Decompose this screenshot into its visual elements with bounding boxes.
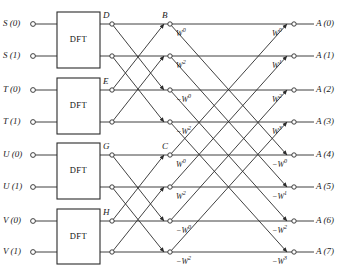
output-label-3: A (3) xyxy=(316,116,334,126)
twiddle-stage3-5: −W1 xyxy=(272,190,287,201)
stage1-node-1 xyxy=(110,54,114,58)
output-node-6 xyxy=(292,219,296,223)
twiddle-stage3-2: W2 xyxy=(272,93,282,104)
output-node-5 xyxy=(292,185,296,189)
node-label-B: B xyxy=(162,10,168,20)
stage2-node-5 xyxy=(168,185,172,189)
output-node-4 xyxy=(292,153,296,157)
twiddle-stage2-1: W2 xyxy=(176,59,186,70)
node-label-G: G xyxy=(103,141,110,151)
output-label-2: A (2) xyxy=(316,84,334,94)
fft-flow-diagram: DFTDFTDFTDFTS (0)S (1)T (0)T (1)U (0)U (… xyxy=(0,0,338,275)
output-node-2 xyxy=(292,88,296,92)
stage2-node-3 xyxy=(168,120,172,124)
input-terminal-0 xyxy=(31,22,36,27)
output-node-1 xyxy=(292,54,296,58)
output-node-7 xyxy=(292,250,296,254)
input-terminal-5 xyxy=(31,185,36,190)
input-label-7: V (1) xyxy=(3,246,21,256)
output-label-7: A (7) xyxy=(316,246,334,256)
stage2-node-6 xyxy=(168,219,172,223)
input-label-3: T (1) xyxy=(3,116,21,126)
input-terminal-4 xyxy=(31,153,36,158)
stage2-node-2 xyxy=(168,88,172,92)
twiddle-stage2-6: −W0 xyxy=(176,224,191,235)
stage2-node-4 xyxy=(168,153,172,157)
input-label-4: U (0) xyxy=(3,149,22,159)
input-terminal-6 xyxy=(31,219,36,224)
input-label-5: U (1) xyxy=(3,181,22,191)
stage1-node-6 xyxy=(110,219,114,223)
twiddle-stage3-6: −W2 xyxy=(272,224,287,235)
stage1-node-2 xyxy=(110,88,114,92)
input-label-2: T (0) xyxy=(3,84,21,94)
output-node-3 xyxy=(292,120,296,124)
twiddle-stage2-0: W0 xyxy=(176,27,186,38)
twiddle-stage2-2: −W0 xyxy=(176,93,191,104)
node-label-H: H xyxy=(103,207,110,217)
stage1-node-5 xyxy=(110,185,114,189)
stage1-node-7 xyxy=(110,250,114,254)
stage2-node-1 xyxy=(168,54,172,58)
output-label-5: A (5) xyxy=(316,181,334,191)
input-label-1: S (1) xyxy=(3,50,20,60)
twiddle-stage2-3: −W2 xyxy=(176,125,191,136)
node-label-C: C xyxy=(162,141,168,151)
output-label-0: A (0) xyxy=(316,18,334,28)
dft-block-label-3: DFT xyxy=(57,231,100,241)
input-label-0: S (0) xyxy=(3,18,20,28)
output-label-1: A (1) xyxy=(316,50,334,60)
twiddle-stage3-3: W3 xyxy=(272,125,282,136)
output-label-6: A (6) xyxy=(316,215,334,225)
flow-graph-canvas xyxy=(0,0,338,275)
dft-block-label-1: DFT xyxy=(57,100,100,110)
dft-block-label-0: DFT xyxy=(57,34,100,44)
input-terminal-2 xyxy=(31,88,36,93)
node-label-D: D xyxy=(103,10,110,20)
dft-block-label-2: DFT xyxy=(57,165,100,175)
twiddle-stage3-1: W1 xyxy=(272,59,282,70)
output-label-4: A (4) xyxy=(316,149,334,159)
twiddle-stage2-5: W2 xyxy=(176,190,186,201)
stage1-node-0 xyxy=(110,22,114,26)
twiddle-stage3-0: W0 xyxy=(272,27,282,38)
stage1-node-3 xyxy=(110,120,114,124)
input-terminal-7 xyxy=(31,250,36,255)
node-label-E: E xyxy=(103,76,109,86)
twiddle-stage2-7: −W2 xyxy=(176,255,191,266)
twiddle-stage2-4: W0 xyxy=(176,158,186,169)
output-node-0 xyxy=(292,22,296,26)
stage1-node-4 xyxy=(110,153,114,157)
twiddle-stage3-4: −W0 xyxy=(272,158,287,169)
stage2-node-0 xyxy=(168,22,172,26)
input-terminal-3 xyxy=(31,120,36,125)
twiddle-stage3-7: −W3 xyxy=(272,255,287,266)
stage2-node-7 xyxy=(168,250,172,254)
input-label-6: V (0) xyxy=(3,215,21,225)
input-terminal-1 xyxy=(31,54,36,59)
